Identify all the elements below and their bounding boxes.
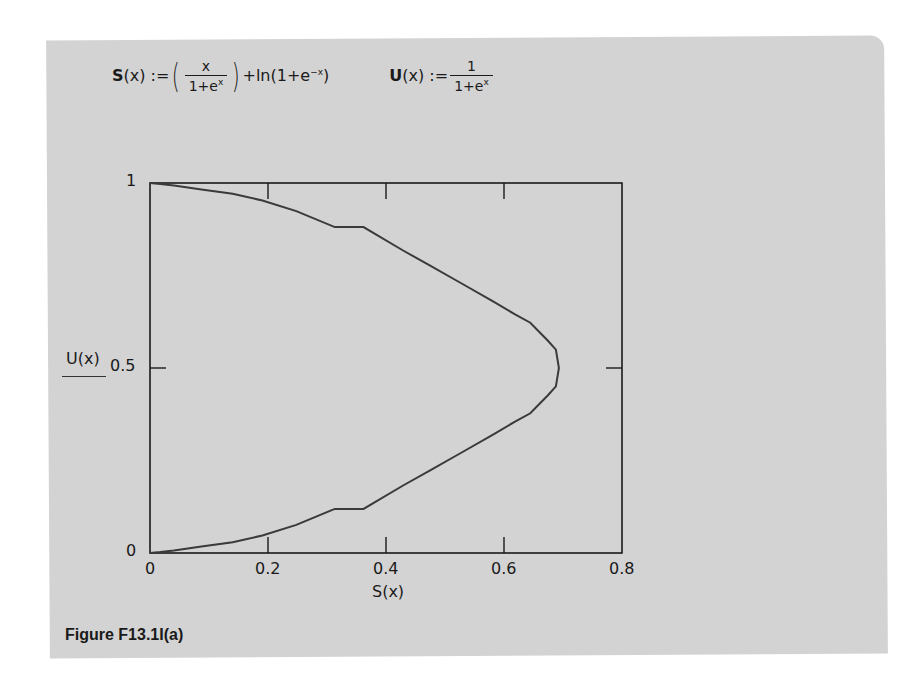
x-tick-label: 0.4 <box>373 559 398 578</box>
x-axis-label: S(x) <box>372 582 404 601</box>
plot-axes <box>150 183 622 553</box>
x-tick-label: 0.8 <box>609 559 634 578</box>
plot <box>0 0 912 693</box>
x-tick-label: 0.2 <box>255 559 280 578</box>
y-axis-label: U(x) <box>62 349 106 377</box>
x-tick-label: 0 <box>145 559 155 578</box>
y-tick-label: 1 <box>126 171 136 190</box>
y-tick-label: 0.5 <box>110 356 135 375</box>
x-tick-label: 0.6 <box>491 559 516 578</box>
y-tick-label: 0 <box>126 541 136 560</box>
figure-caption: Figure F13.1I(a) <box>65 626 183 644</box>
curve-line <box>150 183 559 553</box>
